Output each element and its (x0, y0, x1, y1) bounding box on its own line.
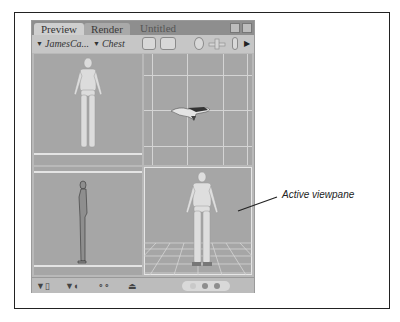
layout-dropdown-icon[interactable]: ▼▯ (36, 281, 50, 291)
figure-perspective-icon (144, 167, 252, 275)
window-title: Untitled (140, 22, 176, 34)
perspective-view-pane[interactable] (144, 167, 252, 275)
part-dropdown-label: Chest (102, 38, 125, 49)
document-window: Preview Render Untitled ▼JamesCa... ▼Che… (32, 21, 254, 292)
triangle-down-icon: ▼ (36, 40, 43, 48)
dot-3[interactable] (214, 283, 220, 289)
dot-1[interactable] (190, 283, 196, 289)
sphere-icon[interactable] (194, 37, 204, 50)
figure-dropdown-label: JamesCa... (45, 38, 89, 49)
close-button[interactable] (242, 23, 252, 33)
view-pill[interactable] (182, 281, 230, 291)
top-view-pane[interactable] (144, 54, 252, 165)
figure-top-icon (144, 54, 252, 165)
dot-2[interactable] (202, 283, 208, 289)
render-style-dropdown-icon[interactable]: ▼◐ (65, 281, 79, 291)
floor-icon[interactable]: ⏏ (128, 281, 137, 291)
figure-dropdown[interactable]: ▼JamesCa... (36, 38, 89, 49)
capsule-icon[interactable] (232, 37, 238, 50)
figure-side-icon (34, 167, 142, 275)
part-dropdown[interactable]: ▼Chest (93, 38, 125, 49)
arrow-right-icon[interactable]: ▶ (244, 39, 250, 48)
callout-label: Active viewpane (282, 189, 354, 200)
bottom-toolbar: ▼▯ ▼◐ ∘∘ ⏏ (32, 277, 254, 293)
minimize-button[interactable] (230, 23, 240, 33)
front-view-pane[interactable] (34, 54, 142, 165)
camera-icon[interactable] (142, 37, 156, 50)
menu-row: ▼JamesCa... ▼Chest ▶ (32, 35, 254, 53)
title-bar: Preview Render Untitled (32, 21, 254, 35)
move-icon[interactable] (207, 38, 227, 50)
lights-icon[interactable]: ∘∘ (98, 281, 110, 291)
side-view-pane[interactable] (34, 167, 142, 275)
triangle-down-icon: ▼ (93, 40, 100, 48)
figure-front-icon (34, 54, 142, 165)
camera-select-icon[interactable] (160, 37, 176, 50)
